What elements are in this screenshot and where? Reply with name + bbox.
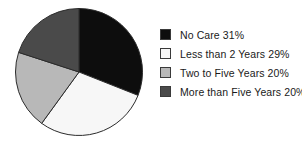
legend-label-less-than-2-years: Less than 2 Years 29% bbox=[180, 48, 290, 60]
legend-item-less-than-2-years: Less than 2 Years 29% bbox=[160, 44, 302, 63]
legend-swatch-less-than-2-years bbox=[160, 48, 171, 59]
pie-chart-plot bbox=[14, 7, 144, 137]
chart-legend: No Care 31% Less than 2 Years 29% Two to… bbox=[160, 25, 302, 101]
pie-chart-figure: No Care 31% Less than 2 Years 29% Two to… bbox=[0, 0, 302, 144]
pie-svg bbox=[14, 7, 144, 137]
legend-label-no-care: No Care 31% bbox=[180, 29, 244, 41]
legend-swatch-no-care bbox=[160, 29, 171, 40]
legend-item-no-care: No Care 31% bbox=[160, 25, 302, 44]
pie-slice-group bbox=[16, 9, 143, 136]
legend-item-more-than-five-years: More than Five Years 20% bbox=[160, 82, 302, 101]
legend-item-two-to-five-years: Two to Five Years 20% bbox=[160, 63, 302, 82]
legend-swatch-two-to-five-years bbox=[160, 67, 171, 78]
legend-label-two-to-five-years: Two to Five Years 20% bbox=[180, 67, 289, 79]
legend-swatch-more-than-five-years bbox=[160, 86, 171, 97]
legend-label-more-than-five-years: More than Five Years 20% bbox=[180, 86, 302, 98]
